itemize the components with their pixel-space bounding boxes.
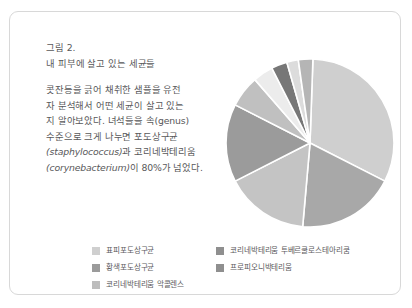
legend-item[interactable]: 코리네박테리움 투베르쿨로스테아리쿰 <box>216 244 350 257</box>
legend-item[interactable]: 코리네박테리움 악콜렌스 <box>92 278 184 291</box>
legend-swatch-icon <box>92 264 100 272</box>
description-line-6-rest: 이 80%가 넘었다. <box>130 162 203 173</box>
figure-title: 내 피부에 살고 있는 세균들 <box>46 56 206 72</box>
pie-chart <box>226 57 394 229</box>
figure-card: 그림 2. 내 피부에 살고 있는 세균들 콧잔등을 긁어 채취한 샘플을 유전… <box>9 11 401 295</box>
legend-swatch-icon <box>216 247 224 255</box>
legend-item-label: 프로피오니박테리움 <box>230 263 292 273</box>
figure-text-column: 그림 2. 내 피부에 살고 있는 세균들 콧잔등을 긁어 채취한 샘플을 유전… <box>46 40 206 176</box>
legend-item[interactable]: 프로피오니박테리움 <box>216 261 350 274</box>
figure-description: 콧잔등을 긁어 채취한 샘플을 유전 자 분석해서 어떤 세균이 살고 있는 지… <box>46 82 206 176</box>
legend-item-label: 코리네박테리움 투베르쿨로스테아리쿰 <box>230 246 350 256</box>
page-root: 그림 2. 내 피부에 살고 있는 세균들 콧잔등을 긁어 채취한 샘플을 유전… <box>0 0 412 308</box>
species-name-staphylococcus: (staphylococcus) <box>46 146 122 157</box>
legend-item[interactable]: 표피포도상구균 <box>92 244 184 257</box>
description-line-5: (staphylococcus)과 코리네박테리움 <box>46 144 206 160</box>
description-line-2: 자 분석해서 어떤 세균이 살고 있는 <box>46 98 206 114</box>
legend-item-label: 황색포도상구균 <box>106 263 154 273</box>
legend-swatch-icon <box>216 264 224 272</box>
legend-item-label: 코리네박테리움 악콜렌스 <box>106 280 184 290</box>
legend-item[interactable]: 황색포도상구균 <box>92 261 184 274</box>
legend-swatch-icon <box>92 247 100 255</box>
legend-item-label: 표피포도상구균 <box>106 246 154 256</box>
description-line-1: 콧잔등을 긁어 채취한 샘플을 유전 <box>46 82 206 98</box>
legend-column-right: 코리네박테리움 투베르쿨로스테아리쿰프로피오니박테리움 <box>216 244 350 278</box>
pie-chart-svg <box>226 57 394 229</box>
description-line-6: (corynebacterium)이 80%가 넘었다. <box>46 160 206 176</box>
description-line-3: 지 알아보았다. 녀석들을 속(genus) <box>46 113 206 129</box>
description-line-4: 수준으로 크게 나누면 포도상구균 <box>46 129 206 145</box>
species-name-corynebacterium: (corynebacterium) <box>46 162 130 173</box>
description-line-5-rest: 과 코리네박테리움 <box>122 146 196 157</box>
figure-label: 그림 2. <box>46 40 206 56</box>
pie-slice-group <box>226 59 394 227</box>
legend-swatch-icon <box>92 281 100 289</box>
legend-column-left: 표피포도상구균황색포도상구균코리네박테리움 악콜렌스 <box>92 244 184 295</box>
